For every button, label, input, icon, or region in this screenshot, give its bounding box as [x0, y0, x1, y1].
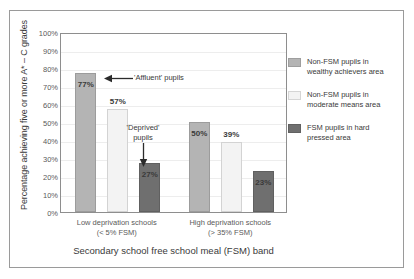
- bar: [75, 73, 96, 212]
- y-tick-label: 80%: [43, 65, 58, 74]
- legend-label: FSM pupils in hardpressed area: [307, 123, 370, 142]
- annotation-affluent-arrow-icon: [103, 73, 134, 84]
- legend-item: Non-FSM pupils inwealthy achievers area: [288, 57, 400, 76]
- bar-value-label: 77%: [78, 80, 94, 89]
- x-tick-label: High deprivation schools(> 35% FSM): [189, 218, 271, 238]
- legend-swatch: [288, 58, 301, 67]
- bar-value-label: 50%: [191, 129, 207, 138]
- legend-item: Non-FSM pupils inmoderate means area: [288, 90, 400, 109]
- y-tick-label: 50%: [43, 119, 58, 128]
- gridline: [61, 52, 286, 53]
- y-tick-label: 30%: [43, 155, 58, 164]
- gridline: [61, 70, 286, 71]
- y-tick-label: 100%: [39, 29, 58, 38]
- bar-value-label: 57%: [110, 97, 126, 106]
- annotation-deprived-label: 'Deprived'pupils: [120, 123, 166, 142]
- annotation-affluent-label: 'Affluent' pupils: [134, 73, 184, 83]
- y-axis-tick-labels: 100%90%80%70%60%50%40%30%20%10%0%: [23, 27, 58, 219]
- legend-item: FSM pupils in hardpressed area: [288, 123, 400, 142]
- x-axis-tick-labels: Low deprivation schools(< 5% FSM)High de…: [60, 218, 287, 244]
- x-axis-title: Secondary school free school meal (FSM) …: [60, 245, 287, 256]
- y-tick-label: 10%: [43, 191, 58, 200]
- x-tick-label: Low deprivation schools(< 5% FSM): [77, 218, 157, 238]
- y-tick-label: 70%: [43, 83, 58, 92]
- y-tick-label: 60%: [43, 101, 58, 110]
- legend-swatch: [288, 91, 301, 100]
- bar-value-label: 27%: [142, 170, 158, 179]
- y-tick-label: 20%: [43, 173, 58, 182]
- legend-label: Non-FSM pupils inmoderate means area: [307, 90, 380, 109]
- plot-area: 77%57%27%50%39%23%'Affluent' pupils'Depr…: [60, 33, 287, 213]
- annotation-deprived-arrow-icon: [138, 143, 149, 168]
- chart-figure: Percentage achieving five or more A* – C…: [0, 0, 414, 279]
- y-tick-label: 90%: [43, 47, 58, 56]
- bar-value-label: 39%: [223, 130, 239, 139]
- y-tick-label: 40%: [43, 137, 58, 146]
- legend-label: Non-FSM pupils inwealthy achievers area: [307, 57, 384, 76]
- bar: [221, 142, 242, 212]
- legend-swatch: [288, 124, 301, 133]
- y-tick-label: 0%: [47, 209, 58, 218]
- bar-value-label: 23%: [255, 178, 271, 187]
